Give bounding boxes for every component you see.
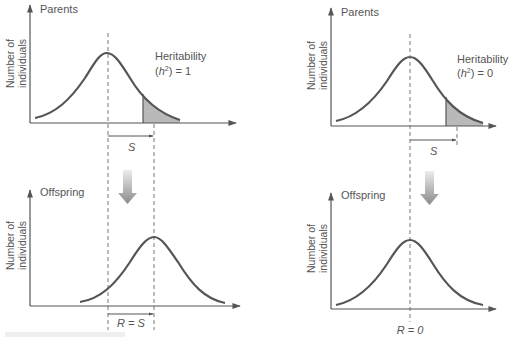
- response-label: R = S: [117, 317, 145, 329]
- parents-title: Parents: [341, 6, 379, 18]
- heritability-label: Heritability: [457, 53, 509, 65]
- y-axis-label: Number of individuals: [4, 36, 28, 88]
- y-axis-label: Number of individuals: [305, 221, 329, 273]
- selection-differential-label: S: [430, 145, 438, 157]
- panel-zero-heritability: Parents Number of individuals Heritabili…: [305, 6, 509, 336]
- offspring-plot-right: Offspring Number of individuals R = 0: [305, 189, 496, 336]
- heritability-selection-diagram: Parents Number of individuals Heritabili…: [0, 0, 509, 337]
- generation-down-arrow: [420, 171, 439, 205]
- heritability-label: Heritability: [155, 50, 207, 62]
- response-label: R = 0: [397, 324, 424, 336]
- generation-down-arrow: [118, 170, 137, 204]
- offspring-title: Offspring: [40, 186, 84, 198]
- selection-differential-label: S: [128, 141, 136, 153]
- heritability-value: (h2) = 1: [155, 65, 191, 77]
- y-axis-label: Number of individuals: [4, 218, 28, 270]
- cropped-caption-remnant: [5, 332, 125, 337]
- heritability-value: (h2) = 0: [457, 67, 493, 79]
- offspring-title: Offspring: [341, 189, 385, 201]
- offspring-plot-left: Offspring Number of individuals R = S: [4, 186, 240, 329]
- panel-high-heritability: Parents Number of individuals Heritabili…: [4, 3, 240, 330]
- parents-plot-right: Parents Number of individuals Heritabili…: [305, 6, 509, 157]
- y-axis-label: Number of individuals: [305, 38, 329, 90]
- parents-title: Parents: [40, 3, 78, 15]
- parents-plot-left: Parents Number of individuals Heritabili…: [4, 3, 236, 153]
- offspring-distribution-curve: [80, 237, 225, 303]
